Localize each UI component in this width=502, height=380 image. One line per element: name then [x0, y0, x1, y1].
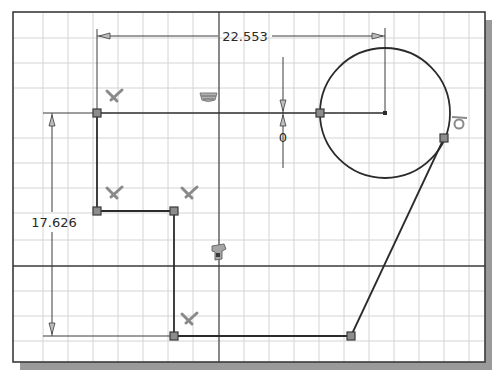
circle-center-point[interactable] — [383, 111, 387, 115]
horizontal-constraint-icon[interactable] — [200, 93, 217, 102]
dimension-offset-value[interactable]: 0 — [279, 130, 287, 145]
point-step-left[interactable] — [93, 207, 101, 215]
point-bottom-right[interactable] — [347, 332, 355, 340]
canvas-background — [13, 12, 485, 362]
point-bottom-left[interactable] — [170, 332, 178, 340]
point-tangent[interactable] — [440, 134, 448, 142]
dimension-horizontal-value[interactable]: 22.553 — [222, 29, 268, 44]
dimension-vertical-value[interactable]: 17.626 — [31, 215, 77, 230]
point-step-right[interactable] — [170, 207, 178, 215]
sketch-canvas[interactable]: 22.553 17.626 0 — [0, 0, 502, 380]
point-circle-left[interactable] — [316, 109, 324, 117]
point-top-left[interactable] — [93, 109, 101, 117]
